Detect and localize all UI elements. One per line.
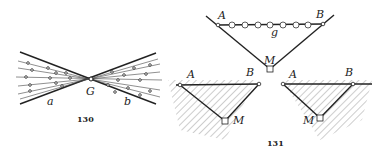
point-g	[89, 77, 93, 81]
label-m-bl: M	[232, 114, 245, 127]
figure-130: G a b 130	[16, 52, 162, 124]
label-a-top: A	[217, 9, 226, 22]
label-a: a	[47, 95, 54, 108]
figure-canvas: G a b 130 A B g M	[0, 0, 381, 149]
figure-131: A B g M A B M A B M	[168, 8, 372, 148]
label-b-bl: B	[245, 66, 254, 79]
label-b: b	[124, 95, 131, 108]
label-a-bl: A	[186, 68, 195, 81]
label-m-top: M	[263, 54, 276, 67]
top-panel: A B g M	[206, 8, 334, 72]
bottom-left-panel: A B M	[168, 66, 261, 140]
label-m-br: M	[302, 114, 315, 127]
label-g-top: g	[271, 26, 278, 39]
bottom-right-panel: A B M	[281, 66, 372, 140]
label-b-br: B	[344, 66, 353, 79]
caption-131: 131	[267, 138, 284, 148]
label-a-br: A	[288, 68, 297, 81]
label-g: G	[86, 85, 95, 98]
label-b-top: B	[315, 8, 324, 21]
caption-130: 130	[77, 114, 94, 124]
